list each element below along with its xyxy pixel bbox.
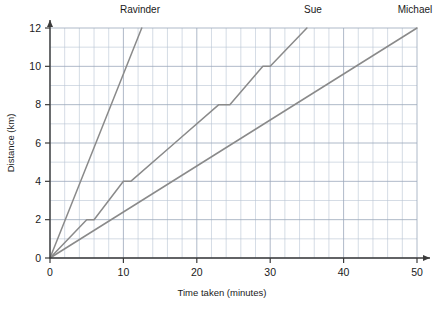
x-tick-label: 40	[338, 266, 350, 278]
y-axis-arrowhead	[47, 20, 53, 27]
chart-svg: 01020304050024681012 Time taken (minutes…	[0, 0, 446, 309]
y-tick-label: 12	[29, 22, 41, 34]
x-tick-label: 50	[411, 266, 423, 278]
y-tick-label: 4	[35, 175, 41, 187]
y-tick-label: 2	[35, 213, 41, 225]
x-tick-label: 30	[264, 266, 276, 278]
x-axis-arrowhead	[423, 255, 430, 261]
distance-time-chart: 01020304050024681012 Time taken (minutes…	[0, 0, 446, 309]
x-tick-label: 20	[191, 266, 203, 278]
series-label-michael: Michael	[398, 4, 432, 15]
x-axis-title: Time taken (minutes)	[178, 287, 267, 298]
y-tick-label: 10	[29, 60, 41, 72]
y-tick-label: 0	[35, 252, 41, 264]
x-tick-label: 0	[47, 266, 53, 278]
series-label-sue: Sue	[304, 4, 322, 15]
series-label-ravinder: Ravinder	[120, 4, 161, 15]
y-tick-label: 8	[35, 98, 41, 110]
y-tick-label: 6	[35, 137, 41, 149]
x-tick-label: 10	[118, 266, 130, 278]
y-axis-title: Distance (km)	[5, 114, 16, 173]
